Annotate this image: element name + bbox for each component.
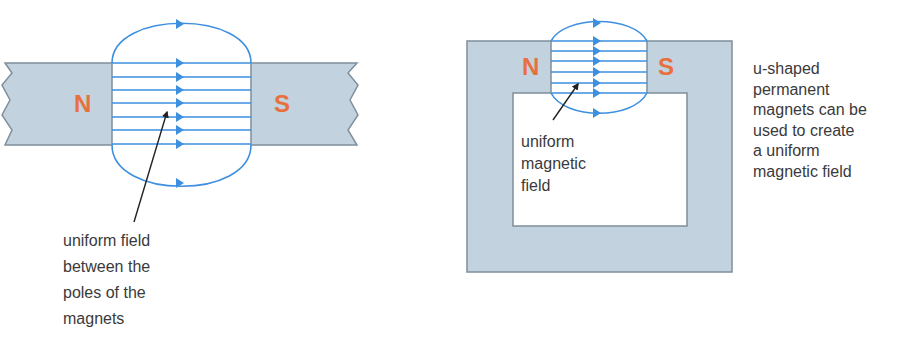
- left-annotation: uniform field between the poles of the m…: [63, 228, 150, 332]
- left-north-label: N: [74, 90, 91, 118]
- left-arrowheads: [176, 19, 184, 188]
- u-magnet: [467, 41, 732, 272]
- left-field-lines: [112, 23, 251, 186]
- south-magnet: [251, 63, 358, 145]
- right-south-label: S: [658, 53, 674, 81]
- right-north-label: N: [522, 53, 539, 81]
- right-arrowheads: [593, 18, 601, 118]
- left-pointer-arrow: [134, 112, 167, 222]
- right-pointer-arrow: [553, 84, 578, 120]
- right-annotation: uniform magnetic field: [521, 131, 586, 197]
- left-south-label: S: [274, 90, 290, 118]
- north-magnet: [2, 63, 112, 145]
- right-caption: u-shaped permanent magnets can be used t…: [753, 59, 867, 182]
- right-field-lines: [551, 22, 647, 114]
